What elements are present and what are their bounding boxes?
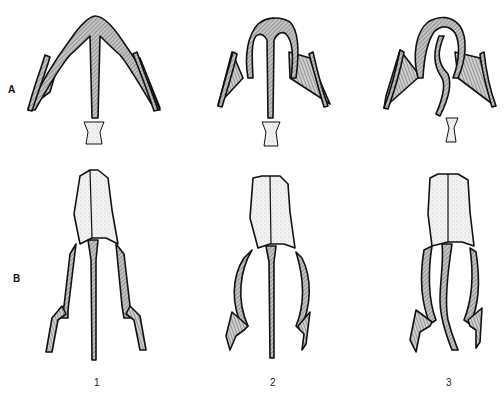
row-label-b: B — [13, 273, 20, 284]
figure-b2 — [226, 176, 310, 358]
diagram-canvas — [0, 0, 504, 396]
figure-a2 — [218, 18, 330, 146]
figure-b1 — [46, 170, 146, 360]
figure-a3 — [384, 17, 496, 142]
column-label-3: 3 — [446, 377, 452, 388]
figure-b3 — [410, 174, 482, 352]
figure-a1 — [28, 16, 160, 144]
column-label-2: 2 — [270, 377, 276, 388]
row-label-a: A — [8, 84, 15, 95]
column-label-1: 1 — [94, 377, 100, 388]
